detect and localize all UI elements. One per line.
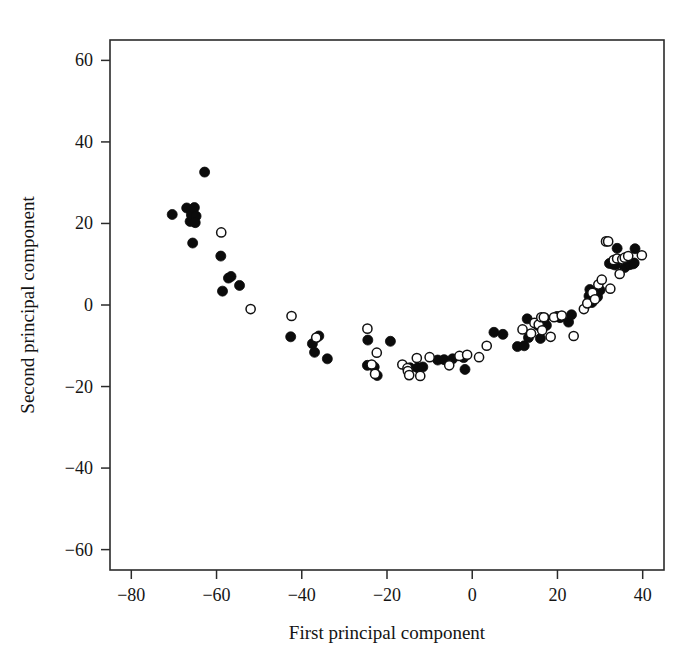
y-tick-label: −20 (65, 377, 93, 397)
data-point-open (569, 331, 578, 340)
data-point-filled (612, 243, 622, 253)
data-point-open (405, 371, 414, 380)
pca-scatter-figure: −80−60−40−2002040 −60−40−200204060 First… (0, 0, 686, 654)
x-axis-label: First principal component (289, 622, 486, 643)
data-point-filled (216, 251, 226, 261)
data-point-open (539, 313, 548, 322)
data-point-open (604, 237, 613, 246)
data-point-open (370, 369, 379, 378)
data-point-open (463, 350, 472, 359)
data-point-open (363, 324, 372, 333)
series-open (217, 228, 647, 381)
x-tick-label: −60 (202, 585, 230, 605)
data-point-open (445, 361, 454, 370)
data-point-open (518, 325, 527, 334)
data-point-filled (418, 362, 428, 372)
data-point-filled (385, 336, 395, 346)
data-point-open (624, 251, 633, 260)
data-point-open (597, 275, 606, 284)
data-point-open (474, 353, 483, 362)
data-point-filled (286, 332, 296, 342)
data-point-filled (188, 238, 198, 248)
x-tick-label: −40 (288, 585, 316, 605)
x-tick-label: −80 (117, 585, 145, 605)
data-point-open (590, 295, 599, 304)
data-point-open (482, 341, 491, 350)
x-tick-label: −20 (373, 585, 401, 605)
data-point-open (557, 311, 566, 320)
data-point-open (416, 371, 425, 380)
data-point-filled (218, 286, 228, 296)
data-point-open (526, 329, 535, 338)
data-point-open (367, 360, 376, 369)
data-point-open (637, 251, 646, 260)
data-point-open (372, 348, 381, 357)
data-point-filled (498, 329, 508, 339)
y-axis-ticks: −60−40−200204060 (65, 50, 110, 559)
data-point-filled (167, 209, 177, 219)
data-point-open (287, 311, 296, 320)
data-point-open (412, 353, 421, 362)
data-point-open (615, 269, 624, 278)
y-axis-label: Second principal component (17, 196, 38, 414)
x-tick-label: 40 (634, 585, 652, 605)
data-point-filled (235, 280, 245, 290)
data-point-filled (190, 218, 200, 228)
data-point-open (538, 326, 547, 335)
data-point-filled (363, 335, 373, 345)
y-tick-label: −60 (65, 540, 93, 560)
y-tick-label: 60 (75, 50, 93, 70)
data-point-open (246, 304, 255, 313)
data-point-open (217, 228, 226, 237)
data-point-filled (310, 347, 320, 357)
x-tick-label: 0 (468, 585, 477, 605)
series-filled (167, 167, 640, 380)
data-point-filled (226, 271, 236, 281)
data-point-filled (460, 364, 470, 374)
y-tick-label: −40 (65, 458, 93, 478)
data-point-filled (489, 327, 499, 337)
x-tick-label: 20 (548, 585, 566, 605)
data-point-filled (567, 310, 577, 320)
scatter-plot-canvas: −80−60−40−2002040 −60−40−200204060 First… (0, 0, 686, 654)
y-tick-label: 0 (84, 295, 93, 315)
data-point-open (546, 332, 555, 341)
data-points-layer (167, 167, 646, 380)
data-point-filled (322, 354, 332, 364)
y-tick-label: 40 (75, 132, 93, 152)
y-tick-label: 20 (75, 213, 93, 233)
data-point-open (312, 333, 321, 342)
x-axis-ticks: −80−60−40−2002040 (117, 570, 651, 605)
data-point-open (425, 353, 434, 362)
data-point-open (606, 284, 615, 293)
data-point-filled (200, 167, 210, 177)
